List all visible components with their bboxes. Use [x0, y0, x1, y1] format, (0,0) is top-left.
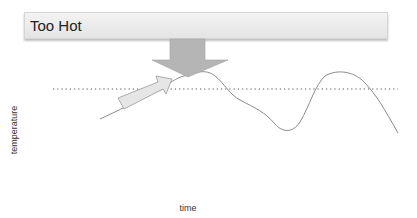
temperature-curve [100, 72, 398, 133]
y-axis-label: temperature [9, 100, 19, 160]
temperature-diagram [0, 0, 417, 218]
arrow-up-right-icon [118, 76, 172, 109]
arrow-down-icon [152, 39, 228, 77]
x-axis-label: time [173, 203, 203, 213]
